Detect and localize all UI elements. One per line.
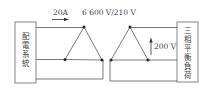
right-char-5: 荷 bbox=[184, 70, 192, 80]
secondary-delta-winding bbox=[111, 27, 148, 60]
transformer-ratio-label: 6 600 V/210 V bbox=[82, 8, 136, 17]
primary-node-left bbox=[64, 58, 67, 61]
right-char-4: 負 bbox=[184, 61, 192, 71]
left-char-2: 系 bbox=[22, 49, 30, 59]
load-voltage-label: 200 V bbox=[154, 42, 177, 51]
current-arrow-icon bbox=[52, 18, 69, 21]
distribution-system-label: 配 電 系 統 bbox=[22, 32, 30, 68]
left-char-0: 配 bbox=[22, 32, 30, 41]
balanced-load-label: 三 相 平 衡 負 荷 bbox=[184, 26, 192, 80]
voltage-arrow-icon bbox=[149, 38, 152, 56]
secondary-node-top bbox=[129, 26, 132, 29]
primary-node-right bbox=[101, 59, 104, 62]
left-char-3: 統 bbox=[22, 58, 30, 68]
current-label: 20A bbox=[53, 8, 69, 17]
circuit-diagram: 配 電 系 統 三 相 平 衡 負 荷 20A 6 600 V/210 V 20 bbox=[0, 0, 212, 90]
left-char-1: 電 bbox=[22, 41, 30, 50]
primary-delta-winding bbox=[65, 27, 102, 60]
primary-node-top bbox=[83, 26, 86, 29]
right-char-0: 三 bbox=[184, 26, 191, 35]
right-char-2: 平 bbox=[184, 44, 192, 53]
primary-wire-bottom bbox=[36, 60, 103, 79]
right-char-3: 衡 bbox=[184, 52, 192, 62]
right-char-1: 相 bbox=[184, 34, 191, 44]
secondary-wire-bottom bbox=[110, 60, 177, 81]
